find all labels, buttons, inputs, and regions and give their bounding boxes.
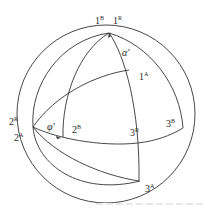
label-3B-right: 3B: [166, 118, 175, 129]
arc-p-to-3B-right: [109, 33, 183, 128]
arc-q-to-3B-right: [33, 127, 183, 144]
clipped-caption: [96, 203, 204, 205]
label-2B: 2B: [72, 124, 81, 135]
label-2R: 2R: [9, 116, 18, 127]
label-1A: 1A: [139, 71, 149, 82]
label-2A: 2A: [14, 132, 24, 143]
arc-q-to-1A: [33, 70, 129, 127]
label-1B: 1B: [95, 15, 104, 26]
label-1R: 1R: [113, 15, 122, 26]
sphere-diagram: 1B 1R α′ 1A 2R 2A φ′ 2B 3R 3B 3A: [0, 0, 208, 210]
label-3A: 3A: [145, 183, 155, 194]
arc-q-to-3A: [33, 127, 139, 181]
label-phi: φ′: [47, 121, 56, 132]
label-alpha: α′: [122, 47, 130, 58]
